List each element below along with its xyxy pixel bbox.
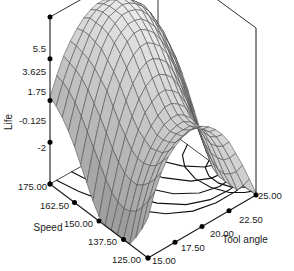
x-tick-label-4: 125.00 — [112, 254, 141, 265]
y-axis-title: Tool angle — [222, 234, 268, 245]
x-tick-label-2: 150.00 — [64, 218, 93, 229]
z-tick-label-3: -0.125 — [19, 115, 46, 126]
z-tick-label-4: -2 — [38, 142, 46, 153]
z-tick-label-2: 1.75 — [28, 86, 47, 97]
x-tick-label-3: 137.50 — [88, 236, 117, 247]
z-tick-label-1: 3.625 — [22, 66, 46, 77]
x-axis-title: Speed — [34, 222, 63, 233]
y-tick-label-1: 17.50 — [181, 242, 205, 253]
x-tick-label-1: 162.50 — [40, 200, 69, 211]
z-axis-title: Life — [3, 114, 14, 131]
y-tick-label-0: 15.00 — [152, 255, 176, 266]
z-tick-label-0: 5.5 — [33, 43, 46, 54]
x-tick-label-0: 175.00 — [18, 181, 47, 192]
axis-annotation-layer: 5.5 3.625 1.75 -0.125 -2 Life 175.00 162… — [0, 0, 294, 271]
y-tick-label-4: 25.00 — [258, 190, 282, 201]
surface-plot-figure: 5.5 3.625 1.75 -0.125 -2 Life 175.00 162… — [0, 0, 294, 271]
y-tick-label-3: 22.50 — [239, 214, 263, 225]
